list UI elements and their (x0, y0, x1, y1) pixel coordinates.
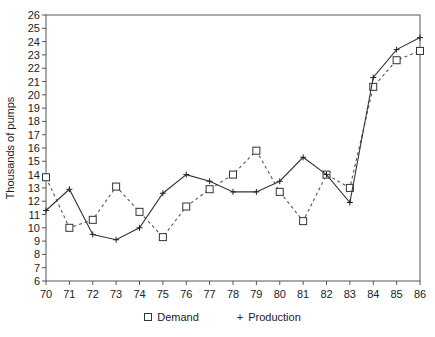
legend-item-demand: Demand (134, 311, 199, 323)
square-marker-icon (43, 174, 50, 181)
plot-frame (46, 15, 420, 281)
plus-marker-icon (417, 35, 423, 41)
y-axis-label: Thousands of pumps (4, 96, 16, 199)
legend-label-demand: Demand (157, 311, 199, 323)
x-tick-label: 83 (344, 288, 356, 300)
plus-marker-icon (90, 231, 96, 237)
y-tick-label: 19 (28, 102, 40, 114)
square-marker-icon (136, 208, 143, 215)
plus-marker-icon (113, 237, 119, 243)
square-marker-icon (417, 47, 424, 54)
series-production (43, 35, 423, 243)
square-marker-icon (276, 188, 283, 195)
x-tick-label: 74 (133, 288, 145, 300)
x-tick-label: 82 (320, 288, 332, 300)
demand-line (46, 51, 420, 237)
x-tick-label: 71 (63, 288, 75, 300)
x-tick-label: 80 (274, 288, 286, 300)
square-marker-icon (66, 224, 73, 231)
y-tick-label: 10 (28, 222, 40, 234)
plus-marker-icon (207, 178, 213, 184)
y-tick-label: 16 (28, 142, 40, 154)
y-tick-label: 18 (28, 115, 40, 127)
square-marker-icon (144, 313, 152, 321)
x-tick-label: 77 (204, 288, 216, 300)
legend-item-production: + Production (227, 311, 301, 323)
y-tick-label: 26 (28, 9, 40, 21)
x-tick-label: 76 (180, 288, 192, 300)
y-tick-label: 6 (34, 275, 40, 287)
x-tick-label: 73 (110, 288, 122, 300)
square-marker-icon (230, 171, 237, 178)
y-tick-label: 13 (28, 182, 40, 194)
x-tick-label: 79 (250, 288, 262, 300)
square-marker-icon (159, 234, 166, 241)
x-tick-label: 70 (40, 288, 52, 300)
x-tick-label: 84 (367, 288, 379, 300)
x-tick-label: 78 (227, 288, 239, 300)
y-tick-label: 21 (28, 76, 40, 88)
production-line (46, 38, 420, 240)
y-tick-label: 17 (28, 129, 40, 141)
y-tick-label: 8 (34, 248, 40, 260)
square-marker-icon (393, 57, 400, 64)
x-tick-label: 86 (414, 288, 426, 300)
x-tick-label: 81 (297, 288, 309, 300)
y-tick-label: 25 (28, 22, 40, 34)
y-tick-label: 7 (34, 262, 40, 274)
x-tick-label: 72 (87, 288, 99, 300)
y-tick-label: 9 (34, 235, 40, 247)
y-tick-label: 20 (28, 89, 40, 101)
x-tick-label: 85 (391, 288, 403, 300)
square-marker-icon (300, 218, 307, 225)
y-tick-label: 12 (28, 195, 40, 207)
y-tick-label: 14 (28, 169, 40, 181)
plus-marker-icon (253, 189, 259, 195)
square-marker-icon (183, 203, 190, 210)
legend-label-production: Production (248, 311, 301, 323)
plus-marker-icon: + (237, 312, 243, 322)
y-tick-label: 23 (28, 49, 40, 61)
x-tick-label: 75 (157, 288, 169, 300)
line-chart: 67891011121314151617181920212223242526 7… (0, 0, 435, 337)
y-tick-label: 11 (29, 209, 40, 221)
x-axis-ticks: 7071727374757677787980818283848586 (40, 281, 426, 300)
square-marker-icon (206, 186, 213, 193)
y-tick-label: 15 (28, 155, 40, 167)
legend: Demand + Production (0, 311, 435, 323)
plus-marker-icon (230, 189, 236, 195)
y-tick-label: 24 (28, 36, 40, 48)
square-marker-icon (253, 147, 260, 154)
series-layer (43, 35, 424, 243)
square-marker-icon (89, 216, 96, 223)
plus-marker-icon (137, 225, 143, 231)
y-axis-ticks: 67891011121314151617181920212223242526 (28, 9, 46, 287)
series-demand (43, 47, 424, 240)
square-marker-icon (113, 183, 120, 190)
y-tick-label: 22 (28, 62, 40, 74)
